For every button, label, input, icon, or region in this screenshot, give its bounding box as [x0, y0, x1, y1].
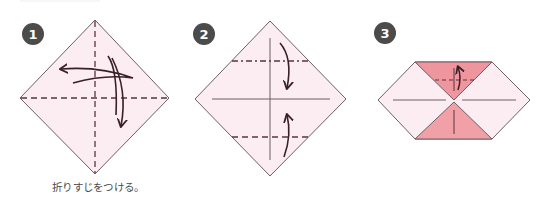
step-2: 2	[193, 21, 346, 176]
step-number-3: 3	[380, 26, 389, 41]
step-3: 3	[374, 22, 530, 139]
step-number-1: 1	[28, 27, 37, 42]
step-1: 1	[20, 20, 169, 174]
step-number-2: 2	[199, 27, 208, 42]
origami-diagram: 1 2 3	[0, 0, 560, 198]
step-1-caption: 折りすじをつける。	[52, 179, 145, 194]
